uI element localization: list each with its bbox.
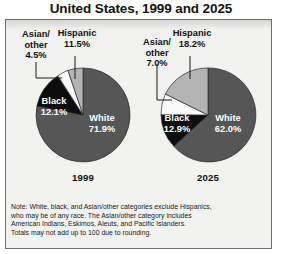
footnote-line-3: American Indians, Eskimos, Aleuts, and P…	[11, 220, 261, 229]
footnote-line-2: who may be of any race. The Asian/other …	[11, 212, 261, 221]
chart-footnote: Note: White, black, and Asian/other cate…	[11, 203, 261, 237]
pie-1999-label-hispanic: Hispanic 11.5%	[48, 28, 106, 49]
footnote-line-1: Note: White, black, and Asian/other cate…	[11, 203, 261, 212]
pie-1999-year-label: 1999	[59, 172, 107, 183]
footnote-line-4: Totals may not add up to 100 due to roun…	[11, 229, 261, 238]
figure-root: United States, 1999 and 2025 Asian/ othe…	[0, 0, 282, 254]
pie-2025-label-white: White 62.0%	[205, 113, 251, 134]
pie-1999-label-black: Black 12.1%	[32, 96, 76, 117]
pie-1999-label-white: White 71.9%	[80, 113, 124, 134]
pie-2025-year-label: 2025	[184, 172, 232, 183]
pie-2025-label-hispanic: Hispanic 18.2%	[163, 28, 221, 49]
pie-2025-label-black: Black 12.9%	[155, 113, 199, 134]
